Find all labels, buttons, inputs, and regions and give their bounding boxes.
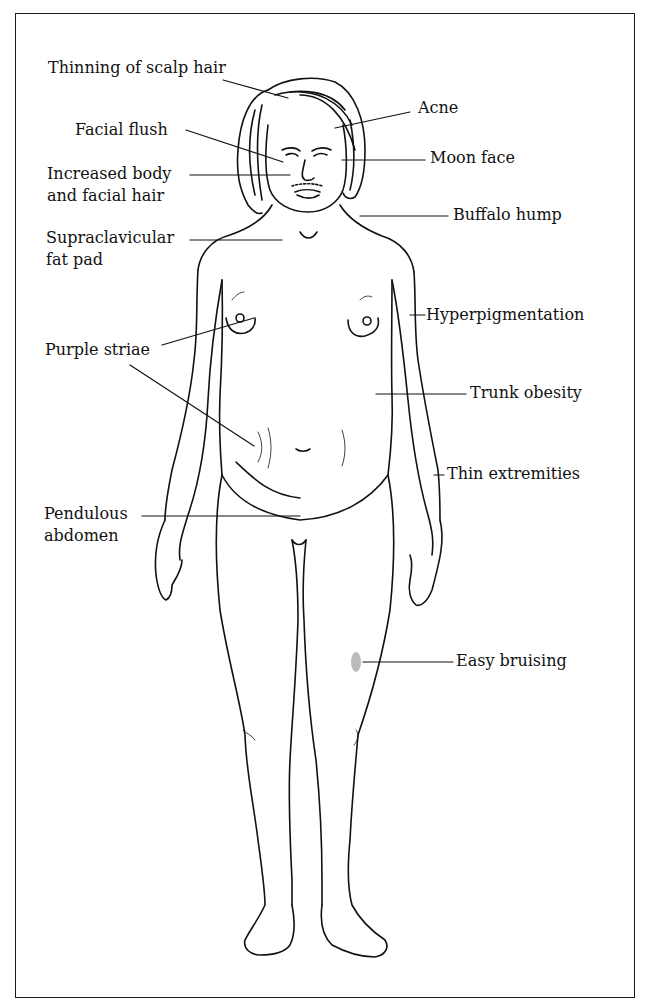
label-thin-extremities: Thin extremities bbox=[447, 464, 580, 484]
label-supraclavicular-line2: fat pad bbox=[46, 250, 103, 270]
bruise-mark bbox=[351, 652, 361, 672]
label-supraclavicular-line1: Supraclavicular bbox=[46, 228, 174, 248]
legs bbox=[216, 475, 393, 957]
leader-purple-striae-upper bbox=[162, 318, 254, 345]
label-acne: Acne bbox=[418, 98, 458, 118]
label-trunk-obesity: Trunk obesity bbox=[470, 383, 582, 403]
label-increased-hair-line1: Increased body bbox=[47, 164, 171, 184]
label-thinning-scalp-hair: Thinning of scalp hair bbox=[48, 58, 226, 78]
label-hyperpigmentation: Hyperpigmentation bbox=[426, 305, 584, 325]
label-pendulous-line2: abdomen bbox=[44, 526, 119, 546]
leader-facial-flush bbox=[186, 130, 283, 162]
label-facial-flush: Facial flush bbox=[75, 120, 168, 140]
label-moon-face: Moon face bbox=[430, 148, 515, 168]
label-buffalo-hump: Buffalo hump bbox=[453, 205, 562, 225]
arms bbox=[155, 280, 442, 605]
body-illustration bbox=[0, 0, 652, 1006]
label-pendulous-line1: Pendulous bbox=[44, 504, 128, 524]
torso bbox=[165, 205, 440, 520]
label-increased-hair-line2: and facial hair bbox=[47, 186, 164, 206]
label-purple-striae: Purple striae bbox=[45, 340, 150, 360]
face bbox=[266, 125, 346, 212]
label-easy-bruising: Easy bruising bbox=[456, 651, 567, 671]
leader-thinning-hair bbox=[223, 80, 288, 98]
leader-lines bbox=[130, 80, 466, 662]
